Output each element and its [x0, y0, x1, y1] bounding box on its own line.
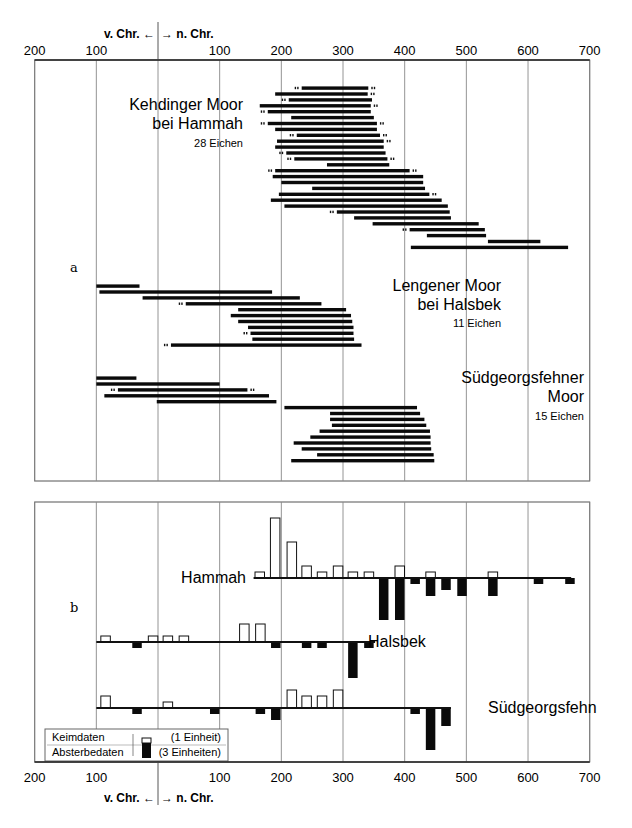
site-label: bei Halsbek	[417, 296, 502, 313]
tick-label-bottom: 100	[209, 770, 231, 785]
keimdaten-bar	[256, 624, 266, 642]
tree-ring-bar	[275, 92, 368, 95]
absterbedaten-bar	[348, 642, 358, 678]
tree-ring-bar	[281, 181, 423, 184]
keimdaten-bar	[302, 566, 312, 578]
tree-ring-bar	[310, 435, 430, 438]
absterbedaten-bar	[210, 708, 220, 714]
tree-ring-bar	[337, 210, 450, 213]
tick-label-bottom: 200	[24, 770, 46, 785]
keimdaten-bar	[333, 566, 343, 578]
absterbedaten-bar	[488, 578, 498, 596]
tree-group	[260, 86, 568, 249]
tree-ring-bar	[96, 376, 136, 379]
tick-label-bottom: 600	[517, 770, 539, 785]
tree-ring-bar	[317, 453, 434, 456]
series-label: Hammah	[181, 569, 246, 586]
histogram-series: Halsbek	[96, 624, 426, 678]
tree-ring-bar	[302, 86, 369, 89]
tree-ring-bar	[104, 394, 269, 397]
tree-ring-bar	[330, 418, 424, 421]
tree-ring-bar	[271, 199, 442, 202]
tick-label-bottom: 200	[270, 770, 292, 785]
tree-ring-bar	[427, 234, 486, 237]
tree-ring-bar	[410, 228, 485, 231]
absterbedaten-bar	[565, 578, 575, 584]
tree-group	[96, 284, 361, 346]
absterbedaten-bar	[410, 708, 420, 714]
legend-keim-swatch	[142, 738, 151, 743]
tick-label-bottom: 300	[332, 770, 354, 785]
absterbedaten-bar	[271, 708, 281, 720]
tree-ring-bar	[118, 388, 248, 391]
tree-ring-bar	[297, 134, 380, 137]
tree-ring-bar	[275, 169, 409, 172]
tick-label-top: 200	[270, 43, 292, 58]
tree-ring-bar	[252, 338, 354, 341]
tick-label-top: 600	[517, 43, 539, 58]
site-label: Kehdinger Moor	[129, 96, 244, 113]
dendro-figure: aKehdinger Moorbei Hammah28 EichenLengen…	[0, 0, 632, 828]
absterbedaten-bar	[302, 642, 312, 648]
tree-ring-bar	[294, 157, 387, 160]
tree-ring-bar	[327, 163, 389, 166]
absterbedaten-bar	[457, 578, 467, 596]
legend-abst-note: (3 Einheiten)	[159, 746, 221, 758]
absterbedaten-bar	[271, 642, 281, 648]
keimdaten-bar	[287, 690, 297, 708]
site-label: Südgeorgsfehner	[461, 369, 584, 386]
era-label-bc: v. Chr. ←	[104, 791, 155, 805]
tree-ring-bar	[157, 400, 277, 403]
tree-ring-bar	[312, 187, 425, 190]
absterbedaten-bar	[441, 708, 451, 726]
tick-label-bottom: 100	[85, 770, 107, 785]
tree-count-label: 15 Eichen	[535, 410, 584, 422]
tree-ring-bar	[284, 406, 417, 409]
absterbedaten-bar	[426, 708, 436, 750]
absterbedaten-bar	[132, 708, 142, 714]
tick-label-bottom: 400	[394, 770, 416, 785]
absterbedaten-bar	[441, 578, 451, 590]
era-label-ad: → n. Chr.	[161, 791, 214, 805]
absterbedaten-bar	[132, 642, 142, 648]
tree-count-label: 11 Eichen	[453, 317, 501, 329]
tick-label-top: 400	[394, 43, 416, 58]
tree-ring-bar	[488, 240, 540, 243]
panel-b-histogram: bHammahHalsbekSüdgeorgsfehnKeimdatenAbst…	[35, 502, 597, 762]
tree-ring-bar	[268, 110, 371, 113]
keimdaten-bar	[302, 696, 312, 708]
tick-label-top: 100	[85, 43, 107, 58]
tick-label-bottom: 500	[455, 770, 477, 785]
site-label: Moor	[548, 388, 585, 405]
legend-abst-label: Absterbedaten	[52, 746, 124, 758]
era-label-bc: v. Chr. ←	[104, 27, 155, 41]
panel-label-a: a	[70, 260, 78, 275]
tick-label-top: 700	[579, 43, 601, 58]
tree-ring-bar	[373, 222, 479, 225]
tree-ring-bar	[238, 320, 352, 323]
tree-ring-bar	[96, 284, 139, 287]
tree-ring-bar	[275, 145, 384, 148]
keimdaten-bar	[395, 566, 405, 578]
keimdaten-bar	[317, 696, 327, 708]
tree-count-label: 28 Eichen	[194, 137, 243, 149]
tree-ring-bar	[284, 204, 447, 207]
tree-ring-bar	[260, 104, 371, 107]
tree-ring-bar	[291, 459, 434, 462]
tree-ring-bar	[268, 122, 377, 125]
absterbedaten-bar	[410, 578, 420, 584]
tree-ring-bar	[231, 314, 351, 317]
keimdaten-bar	[287, 542, 297, 578]
tree-ring-bar	[251, 332, 354, 335]
tree-ring-bar	[248, 326, 353, 329]
tree-ring-bar	[277, 140, 384, 143]
tree-ring-bar	[354, 216, 451, 219]
legend: KeimdatenAbsterbedaten(1 Einheit)(3 Einh…	[45, 729, 228, 761]
absterbedaten-bar	[379, 578, 389, 620]
tree-ring-bar	[286, 151, 385, 154]
panel-a-timeline: aKehdinger Moorbei Hammah28 EichenLengen…	[35, 60, 590, 481]
tree-ring-bar	[302, 447, 432, 450]
keimdaten-bar	[240, 624, 250, 642]
histogram-series: Hammah	[181, 518, 575, 620]
tree-ring-bar	[143, 296, 300, 299]
